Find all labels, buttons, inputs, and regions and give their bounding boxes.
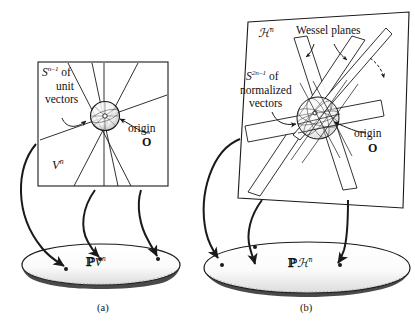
panel-b-sphere-label-line2: normalized xyxy=(240,84,292,96)
panel-a-projective-p: ℙ xyxy=(86,255,95,269)
panel-b-space-symbol: ℋ xyxy=(258,26,270,40)
panel-a-projective-exponent: n xyxy=(102,254,106,263)
panel-b-projective-label: ℙℋn xyxy=(288,256,312,270)
panel-b-sphere-label: S2n–1 of xyxy=(246,70,278,82)
panel-a-projective-v: V xyxy=(95,255,102,269)
panel-a-sphere-label-line3: vectors xyxy=(45,93,78,105)
panel-a-space-exponent: n xyxy=(60,157,64,166)
panel-a-sphere-label-line2: unit xyxy=(56,80,74,92)
panel-a-space-symbol: V xyxy=(52,158,60,172)
panel-a-unit-sphere xyxy=(90,102,121,131)
panel-a-sphere-of: of xyxy=(58,66,70,78)
panel-a-caption: (a) xyxy=(97,302,109,313)
panel-a-origin-symbol: O xyxy=(142,136,151,149)
panel-b-projective-p: ℙ xyxy=(288,256,297,270)
panel-b-space-exponent: n xyxy=(270,25,274,34)
panel-b-projective-exponent: n xyxy=(309,255,313,264)
panel-b-origin-label: origin xyxy=(354,127,381,139)
panel-a-space-label: Vn xyxy=(52,158,64,173)
panel-b xyxy=(204,12,410,297)
panel-b-origin-symbol: O xyxy=(368,142,377,155)
panel-b-space-label: ℋn xyxy=(258,26,274,40)
panel-b-wessel-planes-label: Wessel planes xyxy=(296,24,361,36)
panel-b-sphere-of: of xyxy=(266,70,278,82)
panel-b-sphere-label-line3: vectors xyxy=(249,97,282,109)
panel-a-projective-label: ℙVn xyxy=(86,255,106,269)
panel-b-sphere-exponent: 2n–1 xyxy=(252,69,266,77)
panel-a-sphere-label: Sn–1 of xyxy=(42,66,71,78)
panel-b-projective-h: ℋ xyxy=(297,256,309,270)
panel-a-sphere-exponent: n–1 xyxy=(48,65,59,73)
panel-b-caption: (b) xyxy=(300,302,312,313)
panel-a-origin-label: origin xyxy=(128,122,155,134)
